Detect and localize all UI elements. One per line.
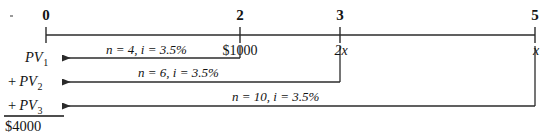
pv1-subscript: 1 [43,57,48,68]
pv2-symbol: PV [19,73,37,89]
rate-label-pv3: n = 10, i = 3.5% [232,90,319,103]
cash-flow-label-1000: $1000 [223,44,258,58]
cash-flow-label-2x: 2x [334,44,347,58]
rate-label-pv2: n = 6, i = 3.5% [138,66,219,79]
pv3-plus-sign: + [8,97,16,113]
pv1-symbol: PV [25,49,43,65]
axis-tick-label-5: 5 [531,8,539,23]
axis-tick-label-0: 0 [42,8,50,23]
axis-tick-label-2: 2 [236,8,244,23]
cash-flow-diagram: 0 2 3 5 $1000 2x x n = 4, i = 3.5% n = 6… [0,0,555,135]
cash-flow-label-x: x [533,44,539,58]
pv2-subscript: 2 [37,81,42,92]
diagram-canvas [0,0,555,135]
pv3-subscript: 3 [37,105,42,116]
present-value-term-1: PV1 [22,50,48,68]
present-value-term-3: +PV3 [8,98,42,116]
pv3-symbol: PV [19,97,37,113]
rate-label-pv1: n = 4, i = 3.5% [106,43,187,56]
present-value-term-2: +PV2 [8,74,42,92]
timeline-axis [46,27,535,43]
sum-total-label: $4000 [5,119,41,134]
axis-tick-label-3: 3 [336,8,344,23]
pv2-plus-sign: + [8,73,16,89]
